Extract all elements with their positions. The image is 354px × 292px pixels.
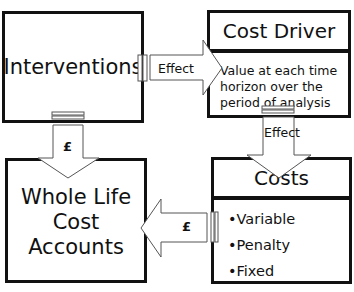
arrow-pound-down-tail-1 <box>52 112 84 115</box>
arrow-effect-right-tail-2 <box>143 55 147 81</box>
edge-label-effect-down: Effect <box>264 125 300 140</box>
edge-label-effect-right: Effect <box>158 61 194 76</box>
arrow-pound-down-tail-2 <box>52 116 84 119</box>
arrow-pound-left-tail-1 <box>211 212 214 242</box>
arrow-effect-right-tail-1 <box>138 55 142 81</box>
arrow-pound-left <box>141 199 207 257</box>
edge-label-pound-left: £ <box>182 219 191 234</box>
edge-label-pound-down: £ <box>63 139 72 154</box>
arrows-layer <box>0 0 354 292</box>
arrow-effect-down-tail-2 <box>262 110 294 113</box>
arrow-effect-down-tail-1 <box>262 106 294 109</box>
arrow-pound-left-tail-2 <box>215 212 218 242</box>
